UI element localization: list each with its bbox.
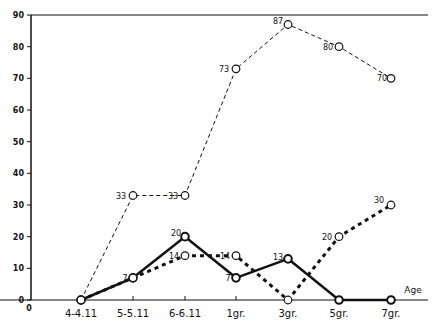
data-point-marker [335,43,343,51]
data-label: 70 [377,74,387,83]
data-point-marker [335,296,343,304]
data-point-marker [181,233,189,241]
data-point-marker [181,192,189,200]
y-tick-label: 60 [13,106,25,115]
x-tick-label: 4-4.11 [65,308,97,319]
axes: 010203040506070809004-4.115-5.116-6.111g… [0,11,428,319]
data-label: 87 [273,17,283,26]
y-tick-label: 50 [13,138,25,147]
data-point-marker [129,274,137,282]
data-point-marker [232,252,240,260]
y-tick-label: 0 [18,296,24,305]
data-point-marker [284,21,292,29]
y-tick-label: 80 [13,43,25,52]
y-tick-label: 70 [13,74,25,83]
line-chart: 010203040506070809004-4.115-5.116-6.111g… [0,0,438,331]
x-tick-label: 5gr. [329,308,348,319]
x-tick-label: 5-5.11 [117,308,149,319]
y-tick-label: 40 [13,169,25,178]
data-label: 20 [322,233,332,242]
data-label: 73 [219,65,229,74]
data-label: 80 [323,43,333,52]
series-solid-line [81,237,391,300]
data-label: 33 [116,192,126,201]
data-label: 20 [171,229,181,238]
data-point-marker [387,296,395,304]
data-label: 14 [220,252,230,261]
data-point-marker [232,65,240,73]
data-point-marker [77,296,85,304]
x-tick-label: 6-6.11 [169,308,201,319]
x-tick-label: 7gr. [381,308,400,319]
x-tick-label: 1gr. [226,308,245,319]
y-tick-label: 30 [13,201,25,210]
data-point-marker [387,75,395,83]
labels: 33337387807072071314142030 [116,17,387,283]
data-label: 30 [374,196,384,205]
x-axis-title: Age [404,285,422,295]
data-label: 13 [273,253,283,262]
data-point-marker [387,201,395,209]
series-lines [77,21,395,304]
data-label: 7 [225,274,230,283]
data-point-marker [284,296,292,304]
data-label: 33 [168,192,178,201]
data-point-marker [232,274,240,282]
data-point-marker [284,255,292,263]
data-point-marker [335,233,343,241]
data-label: 14 [169,252,179,261]
data-point-marker [181,252,189,260]
origin-label: 0 [26,304,32,313]
y-tick-label: 20 [13,233,25,242]
y-tick-label: 90 [13,11,25,20]
x-tick-label: 3gr. [278,308,297,319]
y-tick-label: 10 [13,264,25,273]
data-label: 7 [122,274,127,283]
data-point-marker [129,192,137,200]
